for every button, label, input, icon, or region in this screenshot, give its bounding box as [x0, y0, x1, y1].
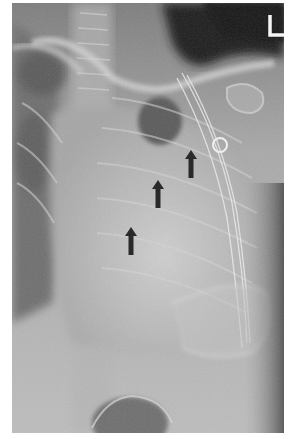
- xray-graphic: [12, 3, 284, 433]
- xray-image: [12, 3, 284, 433]
